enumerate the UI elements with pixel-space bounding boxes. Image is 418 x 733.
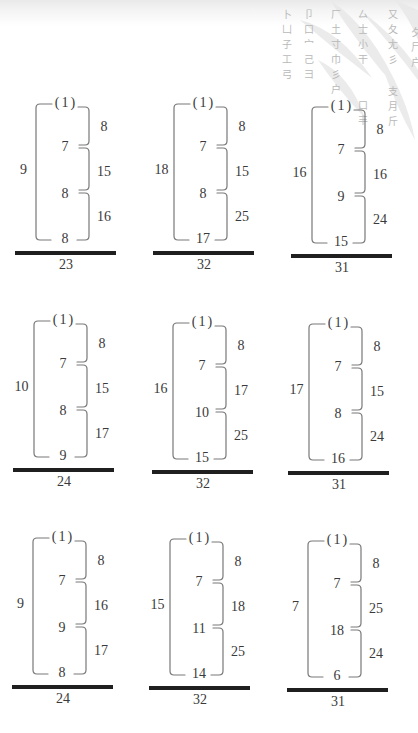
puzzle-7: (1) 9 7 9 8 8 16 17 24 [12,532,122,707]
total-underline [12,685,113,689]
top-number: (1) [327,533,349,547]
right-sum-3: 17 [94,644,108,658]
total-number: 24 [57,475,71,489]
right-sum-2: 18 [231,600,245,614]
right-sum-1: 8 [235,555,242,569]
middle-number-1: 7 [334,577,341,591]
top-number: (1) [55,96,77,110]
right-sum-1: 8 [98,554,105,568]
total-underline [149,686,250,690]
watermark-column: 厂土寸巾彡户 [329,9,339,99]
total-number: 32 [196,477,210,491]
puzzle-2: (1) 18 7 8 17 8 15 25 32 [153,98,263,273]
left-sum: 18 [155,163,169,177]
total-number: 31 [331,695,345,709]
bottom-number: 6 [334,669,341,683]
right-sum-1: 8 [374,340,381,354]
left-sum: 9 [20,163,27,177]
right-sum-2: 15 [95,382,109,396]
left-sum: 16 [154,382,168,396]
top-number: (1) [328,316,350,330]
puzzle-8: (1) 15 7 11 14 8 18 25 32 [149,533,259,708]
right-sum-2: 16 [94,599,108,613]
total-underline [287,688,388,692]
middle-number-2: 9 [59,621,66,635]
watermark-column: 夕尸户 [409,27,418,72]
right-sum-3: 24 [370,430,384,444]
right-sum-2: 17 [234,384,248,398]
right-sum-2: 16 [373,168,387,182]
bottom-number: 9 [60,449,67,463]
top-number: (1) [189,531,211,545]
watermark-column: 卩口宀己彐 [302,9,312,84]
left-sum: 10 [15,380,29,394]
right-sum-3: 16 [97,210,111,224]
puzzle-3: (1) 16 7 9 15 8 16 24 31 [291,101,401,276]
bottom-number: 17 [196,232,210,246]
total-number: 32 [197,258,211,272]
puzzle-1: (1) 9 7 8 8 8 15 16 23 [15,98,125,273]
right-sum-2: 15 [370,385,384,399]
middle-number-2: 10 [195,406,209,420]
middle-number-2: 9 [338,190,345,204]
right-sum-1: 8 [238,339,245,353]
middle-number-1: 7 [338,143,345,157]
bracket-lines [13,315,123,490]
right-sum-3: 25 [231,645,245,659]
total-underline [153,251,254,255]
top-number: (1) [331,99,353,113]
middle-number-2: 8 [62,187,69,201]
watermark-column: 厶士小干 [356,9,366,69]
total-underline [288,471,389,475]
middle-number-2: 8 [200,187,207,201]
puzzle-9: (1) 7 7 18 6 8 25 24 31 [287,535,397,710]
right-sum-3: 25 [234,429,248,443]
total-number: 31 [335,261,349,275]
top-number: (1) [192,315,214,329]
middle-number-1: 7 [335,360,342,374]
bottom-number: 15 [334,235,348,249]
bracket-lines [288,318,398,493]
middle-number-1: 7 [196,575,203,589]
top-number: (1) [52,530,74,544]
middle-number-1: 7 [60,357,67,371]
right-sum-2: 15 [97,165,111,179]
bracket-lines [12,532,122,707]
left-sum: 17 [290,383,304,397]
total-underline [13,468,114,472]
right-sum-3: 24 [369,647,383,661]
middle-number-1: 7 [59,574,66,588]
middle-number-1: 7 [199,359,206,373]
left-sum: 16 [293,166,307,180]
middle-number-2: 18 [330,624,344,638]
right-sum-3: 25 [235,210,249,224]
right-sum-1: 8 [101,120,108,134]
middle-number-2: 8 [60,404,67,418]
total-number: 31 [332,478,346,492]
bottom-number: 14 [192,667,206,681]
bottom-number: 8 [59,666,66,680]
top-number: (1) [53,313,75,327]
total-underline [291,254,392,258]
left-sum: 9 [17,597,24,611]
right-sum-2: 15 [235,165,249,179]
right-sum-2: 25 [369,602,383,616]
bracket-lines [291,101,401,276]
right-sum-1: 8 [377,123,384,137]
puzzle-6: (1) 17 7 8 16 8 15 24 31 [288,318,398,493]
bottom-number: 15 [195,451,209,465]
bracket-lines [15,98,125,273]
document-page: 卜凵子工弓 卩口宀己彐 厂土寸巾彡户 厶士小干 又夂尢彡 夕尸户 口丰 支月斤 … [0,0,418,733]
right-sum-3: 24 [373,213,387,227]
left-sum: 7 [292,600,299,614]
bracket-lines [153,98,263,273]
puzzle-5: (1) 16 7 10 15 8 17 25 32 [152,317,262,492]
total-underline [15,251,116,255]
total-number: 23 [59,258,73,272]
puzzle-4: (1) 10 7 8 9 8 15 17 24 [13,315,123,490]
left-sum: 15 [151,598,165,612]
middle-number-1: 7 [62,140,69,154]
total-number: 24 [56,692,70,706]
middle-number-2: 8 [335,407,342,421]
bottom-number: 8 [62,232,69,246]
